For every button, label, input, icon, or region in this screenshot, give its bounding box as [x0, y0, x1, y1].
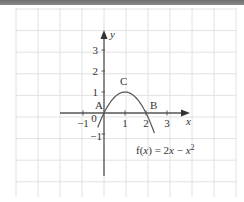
y-tick-label: −1 [90, 130, 102, 142]
function-graph: −1123−11230xyABCf(x) = 2x − x2 [0, 0, 244, 202]
y-tick-label: 1 [93, 86, 99, 98]
origin-label: 0 [91, 112, 97, 124]
x-tick-label: −1 [77, 117, 89, 129]
point-label-b: B [150, 99, 157, 111]
point-label-a: A [95, 99, 103, 111]
grid [16, 8, 236, 197]
function-label: f(x) = 2x − x2 [136, 143, 195, 157]
y-axis-arrow-icon [101, 30, 108, 39]
labels: −1123−11230xyABCf(x) = 2x − x2 [77, 28, 194, 157]
x-axis-label: x [185, 115, 191, 127]
x-tick-label: 1 [122, 117, 128, 129]
x-tick-label: 3 [164, 117, 170, 129]
y-axis-label: y [109, 28, 115, 40]
x-tick-label: 2 [143, 117, 149, 129]
y-tick-label: 2 [93, 65, 99, 77]
y-tick-label: 3 [93, 44, 99, 56]
point-label-c: C [120, 75, 127, 87]
